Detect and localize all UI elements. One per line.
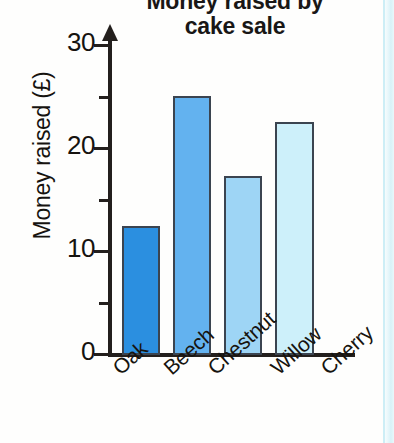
y-tick-0 xyxy=(94,353,110,356)
x-tick-label-cherry: Cherry xyxy=(316,321,378,380)
y-tick-20 xyxy=(94,147,110,150)
y-tick-label-20: 20 xyxy=(25,130,95,161)
y-tick-15 xyxy=(99,199,110,202)
bar-willow[interactable] xyxy=(275,122,314,355)
plot-area: 0 10 20 30 Oak Beech Chestnut Willow Che… xyxy=(0,0,394,443)
bar-beech[interactable] xyxy=(173,96,211,355)
y-axis-arrow-icon xyxy=(102,24,118,41)
chart-page: Money raised by cake sale Money raised (… xyxy=(0,0,394,443)
bar-oak[interactable] xyxy=(122,226,160,355)
y-tick-25 xyxy=(99,96,110,99)
y-tick-30 xyxy=(94,44,110,47)
y-tick-10 xyxy=(94,250,110,253)
y-axis-line xyxy=(108,38,112,357)
y-tick-label-10: 10 xyxy=(25,233,95,264)
y-tick-label-30: 30 xyxy=(25,27,95,58)
y-tick-5 xyxy=(99,302,110,305)
y-tick-label-0: 0 xyxy=(25,336,95,367)
